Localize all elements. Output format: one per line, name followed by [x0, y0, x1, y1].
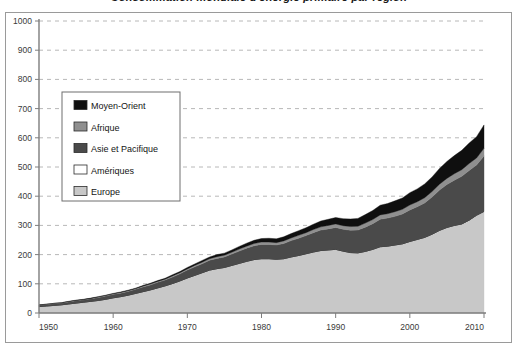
x-tick-label: 1970	[178, 322, 197, 332]
x-tick-label: 2000	[400, 322, 419, 332]
page-title: Consommation mondiale d'énergie primaire…	[0, 0, 518, 3]
x-tick-label: 1980	[252, 322, 271, 332]
chart-frame: 0100200300400500600700800900100019501960…	[5, 12, 512, 343]
legend-swatch-0	[74, 101, 87, 110]
chart-legend: Moyen-OrientAfriqueAsie et PacifiqueAmér…	[62, 92, 180, 201]
legend-label-0: Moyen-Orient	[91, 101, 146, 111]
y-tick-label: 900	[18, 45, 32, 55]
y-tick-label: 1000	[13, 16, 32, 26]
x-tick-label: 1950	[39, 322, 58, 332]
legend-label-4: Europe	[91, 187, 120, 197]
stacked-area-chart: 0100200300400500600700800900100019501960…	[6, 13, 511, 342]
legend-swatch-4	[74, 187, 87, 196]
chart-screenshot: Consommation mondiale d'énergie primaire…	[0, 0, 518, 356]
y-tick-label: 300	[18, 220, 32, 230]
x-tick-label: 2010	[465, 322, 484, 332]
chart-title-clipped: Consommation mondiale d'énergie primaire…	[0, 0, 518, 11]
x-tick-label: 1990	[326, 322, 345, 332]
y-tick-label: 0	[27, 308, 32, 318]
y-tick-label: 600	[18, 133, 32, 143]
y-tick-label: 200	[18, 250, 32, 260]
legend-swatch-1	[74, 122, 87, 131]
legend-label-3: Amériques	[91, 166, 135, 176]
y-tick-label: 400	[18, 191, 32, 201]
legend-swatch-3	[74, 165, 87, 174]
y-tick-label: 100	[18, 279, 32, 289]
y-tick-label: 500	[18, 162, 32, 172]
y-tick-label: 800	[18, 74, 32, 84]
legend-label-2: Asie et Pacifique	[91, 144, 158, 154]
y-tick-label: 700	[18, 104, 32, 114]
x-tick-label: 1960	[104, 322, 123, 332]
legend-swatch-2	[74, 144, 87, 153]
legend-label-1: Afrique	[91, 123, 120, 133]
